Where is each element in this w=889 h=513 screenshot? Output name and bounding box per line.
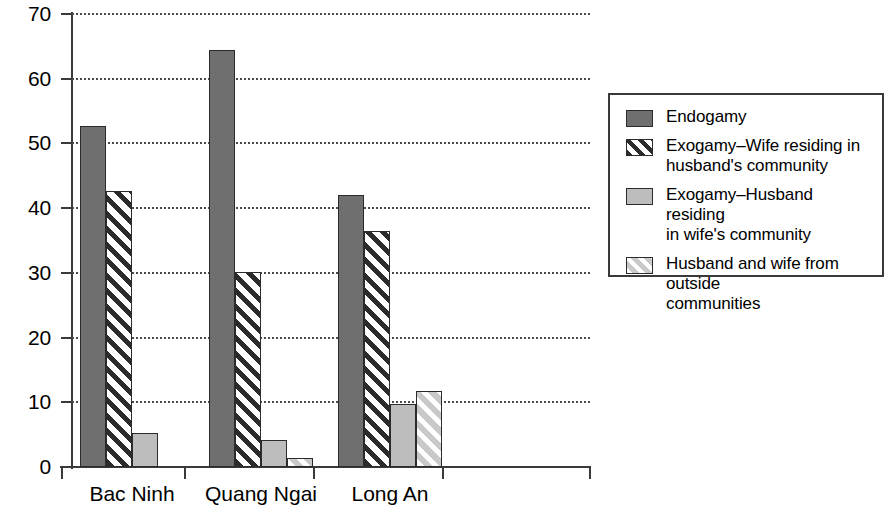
bar: [416, 391, 442, 467]
bar: [106, 191, 132, 467]
y-tick-mark: [61, 272, 72, 274]
legend-label: Exogamy–Wife residing in husband's commu…: [666, 136, 860, 176]
legend-swatch-icon: [626, 257, 653, 274]
bar: [235, 272, 261, 467]
y-tick-label: 60: [0, 68, 51, 89]
y-tick-label: 50: [0, 132, 51, 153]
bar: [287, 458, 313, 467]
legend-label: Exogamy–Husband residing in wife's commu…: [666, 185, 874, 245]
x-tick-mark: [61, 468, 63, 479]
bar: [80, 126, 106, 467]
y-tick-mark: [61, 142, 72, 144]
legend-items: EndogamyExogamy–Wife residing in husband…: [626, 107, 874, 323]
legend-label: Endogamy: [666, 107, 746, 127]
y-tick-label: 10: [0, 391, 51, 412]
x-tick-mark: [589, 468, 591, 479]
x-tick-mark: [313, 468, 315, 479]
legend-swatch-icon: [626, 110, 653, 127]
y-tick-mark: [61, 207, 72, 209]
bar-chart: 010203040506070 Bac NinhQuang NgaiLong A…: [0, 0, 889, 513]
legend-item: Husband and wife from outside communitie…: [626, 254, 874, 314]
y-tick-label: 40: [0, 197, 51, 218]
bar: [364, 231, 390, 467]
y-tick-label: 30: [0, 262, 51, 283]
legend-item: Endogamy: [626, 107, 874, 127]
legend-swatch-icon: [626, 139, 653, 156]
y-tick-mark: [61, 13, 72, 15]
y-tick-mark: [61, 401, 72, 403]
bar: [390, 404, 416, 467]
y-tick-mark: [61, 78, 72, 80]
legend-label: Husband and wife from outside communitie…: [666, 254, 874, 314]
bar: [338, 195, 364, 467]
y-tick-label: 0: [0, 456, 51, 477]
x-tick-mark: [442, 468, 444, 479]
y-tick-label: 20: [0, 327, 51, 348]
category-label-long-an: Long An: [310, 483, 470, 505]
bar: [209, 50, 235, 467]
legend-item: Exogamy–Wife residing in husband's commu…: [626, 136, 874, 176]
y-tick-label: 70: [0, 3, 51, 24]
y-tick-mark: [61, 337, 72, 339]
legend-item: Exogamy–Husband residing in wife's commu…: [626, 185, 874, 245]
bars-layer: [72, 14, 590, 467]
bar: [132, 433, 158, 467]
legend: EndogamyExogamy–Wife residing in husband…: [608, 93, 884, 277]
bar: [261, 440, 287, 467]
x-tick-mark: [184, 468, 186, 479]
legend-swatch-icon: [626, 188, 653, 205]
